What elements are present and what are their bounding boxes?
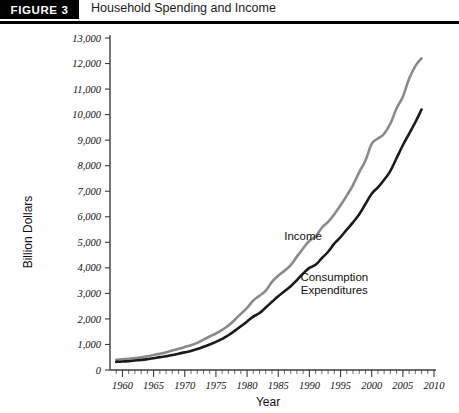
series-labels: IncomeConsumptionExpenditures: [284, 230, 368, 296]
y-tick-label: 6,000: [77, 211, 101, 222]
y-tick-label: 0: [96, 365, 102, 376]
series-line-consumption-expenditures: [116, 110, 421, 362]
x-tick-label: 1965: [143, 380, 164, 391]
y-tick-label: 13,000: [72, 33, 102, 44]
series-label-consumption-expenditures: ConsumptionExpenditures: [300, 271, 368, 296]
x-axis-ticks: 1960196519701975198019851990199520002005…: [112, 370, 445, 391]
x-tick-label: 1975: [205, 380, 226, 391]
y-axis-title: Billion Dollars: [21, 196, 35, 269]
y-tick-label: 10,000: [72, 109, 102, 120]
series-label-income: Income: [284, 230, 322, 242]
x-tick-label: 1980: [237, 380, 259, 391]
series-line-income: [116, 58, 421, 359]
figure-title: Household Spending and Income: [91, 1, 276, 15]
y-tick-label: 1,000: [77, 339, 101, 350]
y-tick-label: 4,000: [77, 262, 101, 273]
data-series: [116, 58, 421, 361]
y-tick-label: 7,000: [77, 186, 101, 197]
y-axis-ticks: 01,0002,0003,0004,0005,0006,0007,0008,00…: [72, 33, 110, 376]
x-tick-label: 2000: [361, 380, 383, 391]
x-tick-label: 1960: [112, 380, 134, 391]
x-axis-title: Year: [256, 395, 280, 409]
y-tick-label: 12,000: [72, 58, 102, 69]
x-tick-label: 1985: [268, 380, 289, 391]
x-tick-label: 2005: [392, 380, 413, 391]
line-chart: 01,0002,0003,0004,0005,0006,0007,0008,00…: [0, 27, 459, 413]
y-tick-label: 11,000: [73, 84, 102, 95]
axis-lines: [110, 35, 436, 370]
y-tick-label: 5,000: [77, 237, 101, 248]
x-tick-label: 1995: [330, 380, 351, 391]
x-tick-label: 2010: [424, 380, 446, 391]
y-tick-label: 9,000: [77, 135, 101, 146]
chart-container: 01,0002,0003,0004,0005,0006,0007,0008,00…: [0, 27, 459, 413]
figure-number-badge: FIGURE 3: [0, 0, 79, 19]
figure-header: FIGURE 3 Household Spending and Income: [0, 0, 459, 27]
y-tick-label: 3,000: [76, 288, 101, 299]
header-divider: [0, 21, 459, 24]
y-tick-label: 8,000: [77, 160, 101, 171]
x-tick-label: 1990: [299, 380, 321, 391]
x-tick-label: 1970: [174, 380, 196, 391]
y-tick-label: 2,000: [77, 314, 101, 325]
